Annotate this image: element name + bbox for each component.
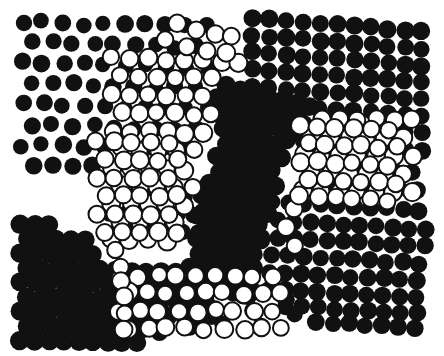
- outline-circle: [246, 303, 263, 320]
- outline-circle: [143, 134, 160, 151]
- outline-circle: [131, 104, 149, 122]
- outline-circle: [223, 28, 240, 45]
- outline-circle: [168, 15, 185, 32]
- filled-circle: [359, 269, 377, 287]
- filled-circle: [312, 32, 330, 50]
- filled-circle: [64, 158, 81, 175]
- outline-circle: [336, 137, 353, 154]
- filled-circle: [203, 226, 220, 243]
- filled-circle: [330, 85, 347, 102]
- filled-circle: [221, 209, 238, 226]
- filled-circle: [368, 235, 385, 252]
- outline-circle: [157, 286, 173, 302]
- filled-circle: [335, 217, 352, 234]
- outline-circle: [207, 25, 225, 43]
- filled-circle: [246, 191, 264, 209]
- filled-circle: [264, 193, 281, 210]
- outline-circle: [343, 190, 360, 207]
- outline-circle: [169, 151, 186, 168]
- outline-circle: [272, 284, 289, 301]
- filled-circle: [329, 15, 347, 33]
- filled-circle: [408, 304, 426, 322]
- outline-circle: [171, 303, 187, 319]
- filled-circle: [395, 72, 413, 90]
- filled-circle: [76, 18, 92, 34]
- filled-circle: [277, 63, 294, 80]
- outline-circle: [310, 188, 328, 206]
- filled-circle: [54, 98, 70, 114]
- outline-circle: [309, 118, 326, 135]
- filled-circle: [33, 136, 48, 151]
- outline-circle: [300, 134, 317, 151]
- outline-circle: [273, 320, 289, 336]
- outline-circle: [131, 225, 147, 241]
- filled-circle: [287, 306, 303, 322]
- filled-circle: [36, 94, 53, 111]
- filled-circle: [308, 283, 326, 301]
- filled-circle: [136, 15, 153, 32]
- outline-circle: [106, 170, 123, 187]
- outline-circle: [178, 38, 195, 55]
- outline-circle: [202, 105, 219, 122]
- filled-circle: [417, 221, 435, 239]
- outline-circle: [141, 168, 159, 186]
- outline-circle: [115, 186, 132, 203]
- outline-circle: [227, 268, 244, 285]
- filled-circle: [312, 49, 329, 66]
- outline-circle: [326, 119, 344, 137]
- outline-circle: [188, 22, 205, 39]
- filled-circle: [214, 190, 231, 207]
- filled-circle: [346, 51, 364, 69]
- filled-circle: [229, 245, 246, 262]
- outline-circle: [179, 285, 195, 301]
- filled-circle: [86, 78, 101, 93]
- outline-circle: [189, 304, 206, 321]
- filled-circle: [292, 265, 310, 283]
- filled-circle: [77, 55, 93, 71]
- filled-circle: [203, 208, 221, 226]
- outline-circle: [277, 218, 295, 236]
- outline-circle: [389, 138, 406, 155]
- filled-circle: [25, 157, 43, 175]
- filled-circle: [220, 227, 238, 245]
- outline-circle: [255, 285, 272, 302]
- filled-circle: [373, 316, 391, 334]
- filled-circle: [364, 36, 380, 52]
- filled-circle: [346, 16, 364, 34]
- filled-circle: [326, 266, 344, 284]
- filled-circle: [325, 316, 341, 332]
- filled-circle: [43, 116, 59, 132]
- filled-circle: [63, 36, 79, 52]
- outline-circle: [405, 148, 422, 165]
- outline-circle: [196, 322, 212, 338]
- outline-circle: [167, 267, 185, 285]
- filled-circle: [416, 237, 433, 254]
- outline-circle: [186, 107, 202, 123]
- filled-circle: [278, 12, 295, 29]
- filled-circle: [409, 202, 427, 220]
- outline-circle: [149, 69, 167, 87]
- filled-circle: [87, 117, 103, 133]
- outline-circle: [290, 187, 308, 205]
- filled-circle: [65, 74, 82, 91]
- filled-circle: [24, 76, 40, 92]
- outline-circle: [197, 283, 215, 301]
- filled-circle: [293, 65, 311, 83]
- outline-circle: [287, 238, 303, 254]
- outline-circle: [96, 150, 113, 167]
- outline-circle: [362, 191, 379, 208]
- outline-circle: [139, 284, 156, 301]
- filled-circle: [381, 55, 398, 72]
- outline-circle: [370, 140, 387, 157]
- outline-circle: [151, 267, 167, 283]
- outline-circle: [168, 186, 186, 204]
- outline-circle: [158, 52, 175, 69]
- outline-circle: [157, 318, 175, 336]
- outline-circle: [166, 104, 184, 122]
- filled-circle: [243, 27, 261, 45]
- filled-circle: [378, 70, 396, 88]
- filled-circle: [44, 156, 61, 173]
- outline-circle: [142, 206, 160, 224]
- outline-circle: [224, 302, 241, 319]
- filled-circle: [344, 250, 361, 267]
